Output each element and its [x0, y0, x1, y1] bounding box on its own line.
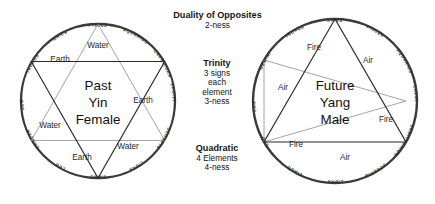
- left-sign-scorpio: SCORPIO: [155, 127, 171, 151]
- right-elem-fire-right: Fire: [379, 115, 394, 124]
- trinity-block: Trinity 3 signs each element 3-ness: [178, 58, 256, 107]
- right-elem-air-left: Air: [278, 83, 288, 92]
- right-core-line-2: Yang: [320, 95, 350, 110]
- right-sign-sagittarius: SAGITTARIUS: [393, 124, 415, 158]
- duality-line-1: 2-ness: [160, 21, 275, 31]
- right-sign-libra: LIBRA: [327, 179, 344, 184]
- quadratic-line-2: 4-ness: [178, 163, 256, 173]
- right-elem-air-bottom: Air: [340, 153, 350, 162]
- right-sign-gemini: GEMINI: [258, 51, 272, 70]
- left-core-line-3: Female: [76, 112, 121, 127]
- left-sign-cancer: CANCER: [25, 128, 40, 150]
- left-elem-earth-right: Earth: [133, 96, 153, 105]
- quadratic-block: Quadratic 4 Elements 4-ness: [178, 143, 256, 173]
- duality-block: Duality of Opposites 2-ness: [160, 10, 275, 30]
- right-sign-leo: LEO: [260, 135, 270, 147]
- right-core-line-1: Future: [316, 78, 355, 93]
- right-sign-virgo: VIRGO: [286, 164, 303, 177]
- quadratic-title: Quadratic: [178, 143, 256, 154]
- left-sign-capricorn: CAPRICORN: [153, 49, 173, 79]
- left-sign-libra: LIBRA: [128, 160, 145, 173]
- left-sign-aquarius: AQUARIUS: [122, 27, 149, 45]
- left-sign-virgo: VIRGO: [89, 174, 106, 179]
- left-sign-taurus: TAURUS: [25, 53, 40, 74]
- left-core-line-2: Yin: [89, 95, 108, 110]
- right-sign-scorpio: SCORPIO: [364, 162, 388, 178]
- right-elem-fire-lower-left: Fire: [289, 140, 304, 149]
- left-sign-pisces: PISCES: [88, 22, 108, 28]
- duality-title: Duality of Opposites: [160, 10, 275, 21]
- diagram-canvas: PISCES ARIES TAURUS GEMINI CANCER LEO VI…: [0, 0, 435, 204]
- trinity-line-4: 3-ness: [178, 97, 256, 107]
- trinity-title: Trinity: [178, 58, 256, 69]
- right-core-line-3: Male: [320, 112, 349, 127]
- right-sign-aries: ARIES: [327, 18, 344, 23]
- left-elem-earth-upper-left: Earth: [50, 55, 70, 64]
- right-sign-pisces: PISCES: [366, 24, 386, 38]
- left-sign-aries: ARIES: [52, 29, 69, 42]
- right-elem-fire-upper-left: Fire: [307, 43, 322, 52]
- left-elem-earth-lower-left: Earth: [72, 153, 92, 162]
- left-elem-water-left: Water: [39, 121, 61, 130]
- right-elem-air-upper-right: Air: [363, 56, 373, 65]
- left-elem-water-top: Water: [87, 41, 109, 50]
- left-wheel-group: PISCES ARIES TAURUS GEMINI CANCER LEO VI…: [0, 0, 177, 180]
- left-core-line-1: Past: [85, 78, 112, 93]
- left-sign-leo: LEO: [54, 162, 66, 172]
- left-elem-water-lower-right: Water: [117, 142, 139, 151]
- right-sign-taurus: TAURUS: [284, 24, 305, 39]
- right-sign-aquarius: AQUARIUS: [395, 48, 413, 75]
